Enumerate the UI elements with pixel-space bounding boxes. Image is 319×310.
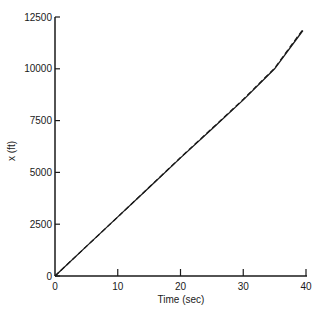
series-line-solid [55, 31, 303, 277]
x-tick-label: 30 [238, 281, 250, 292]
x-ticks: 010203040 [52, 269, 312, 292]
line-chart: 02500500075001000012500 010203040 Time (… [0, 0, 319, 310]
x-tick-label: 40 [300, 281, 312, 292]
x-tick-label: 0 [52, 281, 58, 292]
axes [55, 17, 307, 276]
series-line-dashed [55, 29, 303, 276]
y-tick-label: 12500 [24, 12, 52, 23]
x-axis-title: Time (sec) [158, 294, 205, 305]
y-axis-title: x (ft) [6, 141, 17, 161]
series-lines [55, 29, 303, 276]
y-tick-label: 7500 [30, 115, 53, 126]
x-tick-label: 10 [112, 281, 124, 292]
x-tick-label: 20 [175, 281, 187, 292]
y-tick-label: 0 [46, 271, 52, 282]
y-tick-label: 5000 [30, 167, 53, 178]
y-tick-label: 2500 [30, 219, 53, 230]
y-tick-label: 10000 [24, 63, 52, 74]
